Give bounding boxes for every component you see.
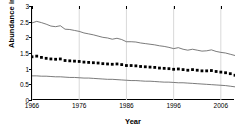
y-tick-mark bbox=[29, 100, 32, 101]
data-point-marker bbox=[32, 55, 33, 58]
data-point-marker bbox=[73, 60, 76, 63]
data-point-marker bbox=[144, 65, 147, 68]
data-point-marker bbox=[215, 70, 218, 73]
data-point-marker bbox=[224, 71, 227, 74]
data-point-marker bbox=[219, 71, 222, 74]
y-tick-label: 1 bbox=[7, 65, 29, 72]
data-point-marker bbox=[153, 66, 156, 69]
data-point-marker bbox=[87, 61, 90, 64]
data-point-marker bbox=[101, 62, 104, 65]
data-point-marker bbox=[130, 64, 133, 67]
series-line-2 bbox=[32, 76, 235, 87]
data-point-marker bbox=[168, 67, 171, 70]
x-tick-label: 1996 bbox=[166, 102, 180, 109]
data-point-marker bbox=[49, 58, 52, 61]
data-point-marker bbox=[35, 55, 38, 58]
data-point-marker bbox=[196, 69, 199, 72]
data-point-marker bbox=[83, 61, 86, 64]
y-tick-mark bbox=[29, 84, 32, 85]
y-tick-label: 2.5 bbox=[7, 18, 29, 25]
data-point-marker bbox=[64, 59, 67, 62]
data-point-marker bbox=[158, 67, 161, 70]
data-point-marker bbox=[163, 67, 166, 70]
data-point-marker bbox=[134, 64, 137, 67]
x-tick-label: 1966 bbox=[25, 102, 39, 109]
data-point-marker bbox=[97, 62, 100, 65]
data-point-marker bbox=[40, 56, 43, 59]
data-point-marker bbox=[68, 59, 71, 62]
data-point-marker bbox=[149, 66, 152, 69]
x-tick-label: 1986 bbox=[119, 102, 133, 109]
y-tick-mark bbox=[29, 53, 32, 54]
data-point-marker bbox=[116, 63, 119, 66]
data-point-marker bbox=[111, 63, 114, 66]
abundance-index-chart: Abundance index 00.511.522.53 1966197619… bbox=[0, 0, 237, 129]
data-point-marker bbox=[45, 57, 48, 60]
y-tick-mark bbox=[29, 69, 32, 70]
data-point-marker bbox=[59, 58, 62, 61]
x-tick-label: 2006 bbox=[214, 102, 228, 109]
data-point-marker bbox=[210, 69, 213, 72]
data-point-marker bbox=[201, 69, 204, 72]
data-point-marker bbox=[229, 72, 232, 75]
x-tick-mark bbox=[79, 6, 80, 9]
y-tick-label: 1.5 bbox=[7, 50, 29, 57]
data-point-marker bbox=[54, 58, 57, 61]
data-point-marker bbox=[172, 68, 175, 71]
x-tick-mark bbox=[174, 6, 175, 9]
data-point-marker bbox=[125, 64, 128, 67]
data-point-marker bbox=[139, 65, 142, 68]
vertical-gridlines bbox=[32, 6, 221, 100]
data-point-marker bbox=[120, 63, 123, 66]
data-point-marker bbox=[78, 60, 81, 63]
data-point-marker bbox=[106, 63, 109, 66]
series-line-0 bbox=[32, 21, 235, 55]
y-tick-label: 3 bbox=[7, 3, 29, 10]
x-tick-mark bbox=[221, 6, 222, 9]
series-lines bbox=[32, 21, 235, 86]
data-point-marker bbox=[177, 68, 180, 71]
plot-area: 00.511.522.53 19661976198619962006 bbox=[31, 6, 234, 100]
y-tick-label: 0.5 bbox=[7, 81, 29, 88]
series-markers bbox=[32, 55, 235, 77]
y-tick-mark bbox=[29, 22, 32, 23]
data-point-marker bbox=[186, 69, 189, 72]
data-point-marker bbox=[92, 61, 95, 64]
data-point-marker bbox=[191, 68, 194, 71]
x-tick-mark bbox=[32, 6, 33, 9]
y-tick-mark bbox=[29, 37, 32, 38]
data-point-marker bbox=[205, 69, 208, 72]
data-point-marker bbox=[234, 74, 235, 77]
data-point-marker bbox=[182, 68, 185, 71]
x-axis-title: Year bbox=[31, 116, 235, 128]
plot-canvas bbox=[32, 6, 235, 100]
y-tick-label: 2 bbox=[7, 34, 29, 41]
x-tick-label: 1976 bbox=[72, 102, 86, 109]
x-tick-mark bbox=[126, 6, 127, 9]
